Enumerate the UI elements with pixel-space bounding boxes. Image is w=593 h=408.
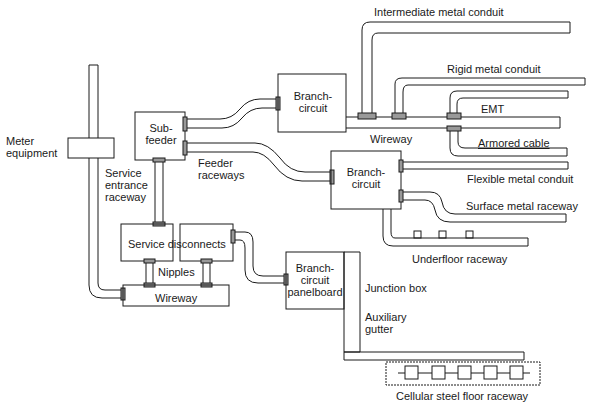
label-service-entrance-raceway: Service entrance raceway — [105, 167, 148, 203]
label-armored-cable: Armored cable — [478, 137, 550, 149]
label-branch-circuit-top: Branch- circuit — [282, 90, 344, 114]
label-branch-circuit-mid: Branch- circuit — [335, 166, 397, 190]
label-auxiliary-gutter: Auxiliary gutter — [365, 311, 407, 335]
label-flexible-metal-conduit: Flexible metal conduit — [467, 173, 573, 185]
label-line: gutter — [365, 323, 407, 335]
label-meter-equipment: Meter equipment — [6, 135, 57, 159]
label-line: equipment — [6, 147, 57, 159]
label-line: Auxiliary — [365, 311, 407, 323]
label-underfloor-raceway: Underfloor raceway — [412, 253, 507, 265]
label-sub-feeder: Sub- feeder — [145, 122, 177, 146]
label-cellular-steel-floor-raceway: Cellular steel floor raceway — [396, 390, 528, 402]
label-emt: EMT — [481, 103, 504, 115]
label-nipples: Nipples — [158, 266, 195, 278]
label-service-disconnects: Service disconnects — [128, 238, 226, 250]
label-line: raceway — [105, 191, 148, 203]
label-line: circuit — [282, 102, 344, 114]
label-surface-metal-raceway: Surface metal raceway — [466, 200, 578, 212]
label-line: Sub- — [145, 122, 177, 134]
label-feeder-raceways: Feeder raceways — [198, 157, 244, 181]
label-wireway-bottom: Wireway — [155, 292, 197, 304]
label-line: Branch- — [335, 166, 397, 178]
label-intermediate-metal-conduit: Intermediate metal conduit — [374, 6, 504, 18]
label-wireway-top: Wireway — [370, 133, 412, 145]
label-line: Meter — [6, 135, 57, 147]
label-junction-box: Junction box — [365, 282, 427, 294]
label-line: Branch- — [287, 262, 343, 274]
label-line: circuit — [287, 274, 343, 286]
label-line: raceways — [198, 169, 244, 181]
label-line: panelboard — [287, 286, 343, 298]
label-branch-circuit-panelboard: Branch- circuit panelboard — [287, 262, 343, 298]
label-line: entrance — [105, 179, 148, 191]
label-line: Service — [105, 167, 148, 179]
label-line: Feeder — [198, 157, 244, 169]
label-line: circuit — [335, 178, 397, 190]
meter-equipment-box — [68, 138, 114, 158]
label-rigid-metal-conduit: Rigid metal conduit — [447, 63, 541, 75]
label-line: Branch- — [282, 90, 344, 102]
label-line: feeder — [145, 134, 177, 146]
